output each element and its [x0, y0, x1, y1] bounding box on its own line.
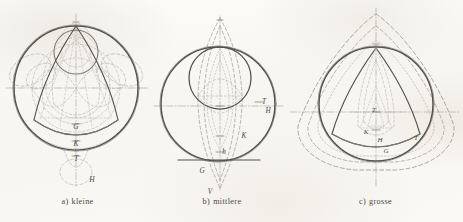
figure-c-caption-index: c) [359, 197, 366, 206]
label-K: K [241, 132, 248, 140]
label-H: H [264, 107, 271, 115]
figure-a-caption-index: a) [61, 197, 68, 206]
label-H: H [376, 136, 383, 144]
figure-c-caption: c)grosse [288, 197, 463, 206]
figure-a-drawing: G K T H [0, 0, 155, 196]
label-G: G [199, 167, 205, 175]
figure-c-caption-word: grosse [369, 197, 392, 206]
label-T: T [262, 98, 267, 106]
label-G: G [73, 122, 79, 131]
label-h: h [222, 148, 226, 156]
label-K: K [72, 139, 79, 148]
figure-a-kleine: G K T H a)kleine [0, 0, 155, 222]
figure-c-drawing: T K H G T [288, 0, 463, 196]
figure-a-caption-word: kleine [71, 197, 93, 206]
label-V: V [208, 188, 214, 196]
figure-b-drawing: T H K h G V [152, 0, 292, 196]
figure-b-caption: b)mittlere [152, 197, 292, 206]
figure-plate: G K T H a)kleine [0, 0, 463, 222]
figure-b-caption-word: mittlere [213, 197, 241, 206]
outer-bounding-circle [161, 47, 275, 161]
label-G: G [383, 147, 388, 155]
figure-c-grosse: T K H G T c)grosse [288, 0, 463, 222]
label-K: K [363, 128, 369, 136]
label-H: H [88, 175, 95, 184]
axis-ticks [216, 20, 263, 152]
figure-b-mittlere: T H K h G V b)mittlere [152, 0, 292, 222]
figure-a-caption: a)kleine [0, 197, 155, 206]
figure-b-caption-index: b) [203, 197, 211, 206]
label-T: T [74, 154, 79, 163]
